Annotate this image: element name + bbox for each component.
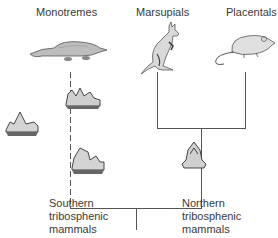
fossil-tooth-icon-northern [180,140,208,172]
label-marsupials: Marsupials [136,6,189,19]
label-southern-tribosphenic: Southern tribosphenic mammals [49,197,108,236]
label-monotremes: Monotremes [36,6,97,19]
label-northern-tribosphenic: Northern tribosphenic mammals [182,197,241,236]
label-line: tribosphenic [182,210,241,223]
kangaroo-icon [139,22,189,77]
label-line: Northern [182,197,241,210]
placental-branch-line [245,72,246,129]
root-stem-line [136,208,137,230]
rat-icon [214,30,276,70]
fossil-tooth-icon-3 [70,144,106,176]
label-placentals: Placentals [226,6,277,19]
label-line: mammals [182,223,241,236]
label-line: Southern [49,197,108,210]
label-line: mammals [49,223,108,236]
label-line: tribosphenic [49,210,108,223]
fossil-tooth-icon-2 [4,110,40,138]
fossil-tooth-icon-1 [64,86,102,110]
marsupial-branch-line [157,72,158,129]
platypus-icon [28,34,108,62]
